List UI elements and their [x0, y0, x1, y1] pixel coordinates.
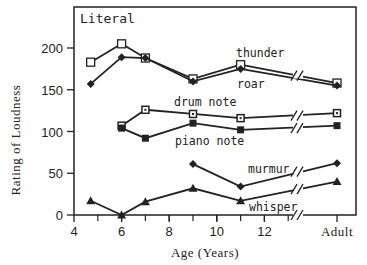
- label-roar: roar: [237, 77, 265, 91]
- label-drum-note: drum note: [174, 95, 236, 109]
- y-tick-label: 50: [49, 166, 63, 181]
- x-axis-label: Age (Years): [171, 245, 239, 260]
- y-tick-label: 200: [41, 41, 63, 56]
- y-axis: 050100150200: [41, 41, 74, 223]
- label-piano-note: piano note: [175, 134, 244, 148]
- x-axis: 4681012Adult: [70, 215, 353, 239]
- series-line: [91, 57, 337, 85]
- x-tick-label: Adult: [321, 224, 353, 239]
- x-tick-label: 10: [210, 224, 224, 239]
- label-thunder: thunder: [236, 46, 285, 60]
- plot-frame: [74, 7, 356, 215]
- series-line: [122, 110, 337, 126]
- y-tick-label: 0: [56, 208, 63, 223]
- y-tick-label: 100: [41, 125, 63, 140]
- label-whisper: whisper: [249, 200, 298, 214]
- chart-title: Literal: [80, 11, 135, 26]
- axis-break-marks: [291, 71, 303, 220]
- x-tick-label: 6: [118, 224, 125, 239]
- series-group: [86, 40, 341, 219]
- y-axis-label: Rating of Loudness: [8, 85, 23, 196]
- x-tick-label: 12: [257, 224, 271, 239]
- x-tick-label: 4: [70, 224, 77, 239]
- x-tick-label: 8: [166, 224, 173, 239]
- loudness-chart: Literal 050100150200 4681012Adult Rating…: [0, 0, 367, 265]
- label-murmur: murmur: [248, 162, 290, 176]
- y-tick-label: 150: [41, 83, 63, 98]
